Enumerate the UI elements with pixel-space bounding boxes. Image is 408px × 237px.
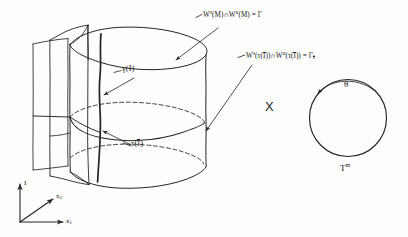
leader-gamma-I <box>104 78 134 95</box>
axis-x2-subscript: 2 <box>60 195 63 200</box>
gamma-subscript-ibar: I <box>313 56 315 57</box>
gamma-ellipse-hidden-arc <box>70 102 205 122</box>
label-theta: θ <box>344 80 348 89</box>
axis-x1-subscript: 1 <box>70 220 73 225</box>
diagram-vector-layer <box>0 0 408 237</box>
label-cartesian-product: X <box>265 100 274 113</box>
label-gamma-I: γ(I) <box>122 65 134 73</box>
gamma-curve <box>98 34 101 182</box>
coordinate-axes <box>20 184 63 222</box>
label-axis-x1: x1 <box>66 218 72 225</box>
sheet-fold-lower <box>70 117 100 133</box>
cylinder-bottom-front-arc <box>70 166 206 188</box>
cylinder-left-edge <box>70 45 71 173</box>
leader-tick-tau-formula <box>238 55 245 58</box>
axis-x2 <box>20 199 53 222</box>
torus-exponent: m <box>346 162 351 168</box>
label-axis-x2: x2 <box>56 193 62 200</box>
back-sheet-ledge <box>33 116 70 117</box>
label-manifold-intersection-tau: Ws(τ(I))∩Wu(τ(I)) = ΓI <box>246 52 315 61</box>
leader-tick-gamma <box>114 71 121 73</box>
label-torus: Tm <box>340 164 350 173</box>
label-tau-Ibar: τ(I) <box>131 139 143 149</box>
manifold-sheet-back <box>33 39 68 171</box>
front-sheet-ledge <box>50 133 70 136</box>
figure-canvas: Ws(M)∩Wu(M) = Γ Ws(τ(I))∩Wu(τ(I)) = ΓI γ… <box>0 0 408 237</box>
leader-tau-Ibar <box>103 131 131 145</box>
label-axis-I: I <box>24 180 26 187</box>
cylinder-top-ellipse <box>70 27 207 70</box>
leader-manifold-intersection <box>176 28 218 60</box>
leader-tick-top-formula <box>196 15 202 18</box>
label-manifold-intersection: Ws(M)∩Wu(M) = Γ <box>203 12 262 20</box>
leader-manifold-intersection-tau <box>206 65 252 131</box>
